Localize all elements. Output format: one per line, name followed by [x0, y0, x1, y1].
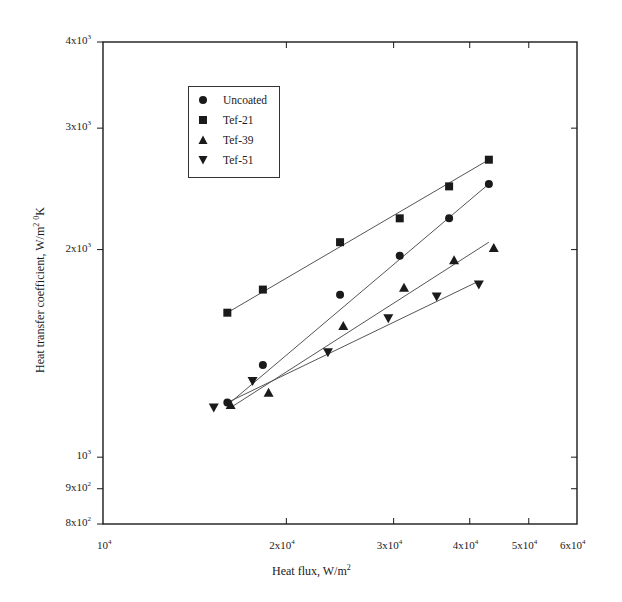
circle-icon: [485, 180, 493, 188]
y-axis-title-unit: K: [33, 207, 47, 216]
legend-label: Uncoated: [223, 94, 267, 106]
x-axis-title: Heat flux, W/m2: [272, 563, 351, 579]
axis-ticks: [97, 42, 577, 524]
triangle-up-icon: [399, 283, 409, 292]
square-icon: [259, 286, 267, 294]
legend-label: Tef-39: [223, 134, 254, 146]
triangle-down-icon: [189, 155, 217, 165]
legend-item-tef-21: Tef-21: [189, 111, 254, 129]
y-tick-label: 9x102: [31, 480, 91, 493]
legend-item-uncoated: Uncoated: [189, 91, 267, 109]
legend-item-tef-39: Tef-39: [189, 131, 254, 149]
y-tick-label: 3x103: [31, 119, 91, 132]
x-tick-label: 6x104: [560, 538, 586, 551]
plot-canvas: [0, 0, 622, 602]
triangle-down-icon: [209, 404, 219, 413]
y-axis-title-sup2: 0: [32, 216, 41, 220]
y-axis-title-sup1: 2: [32, 223, 41, 227]
triangle-up-icon: [489, 243, 499, 252]
circle-icon: [445, 214, 453, 222]
square-icon: [396, 214, 404, 222]
plot-frame: [103, 42, 577, 524]
x-tick-label: 4x104: [453, 538, 479, 551]
y-tick-label: 8x102: [31, 515, 91, 528]
x-axis-title-sup: 2: [347, 563, 351, 572]
x-tick-label: 3x104: [377, 538, 403, 551]
square-icon: [336, 238, 344, 246]
legend-label: Tef-51: [223, 154, 254, 166]
x-tick-label: 2x104: [269, 538, 295, 551]
triangle-up-icon: [449, 255, 459, 264]
triangle-down-icon: [474, 280, 484, 289]
square-icon: [485, 156, 493, 164]
legend-label: Tef-21: [223, 114, 254, 126]
fit-lines: [227, 160, 489, 408]
triangle-up-icon: [264, 388, 274, 397]
circle-icon: [189, 95, 217, 105]
x-tick-label: 104: [97, 538, 112, 551]
y-axis-title: Heat transfer coefficient, W/m2 0K: [32, 207, 48, 373]
square-icon: [223, 309, 231, 317]
legend: Uncoated Tef-21 Tef-39 Tef-51: [188, 86, 280, 178]
legend-item-tef-51: Tef-51: [189, 151, 254, 169]
y-tick-label: 103: [31, 448, 91, 461]
square-icon: [445, 182, 453, 190]
y-axis-title-text: Heat transfer coefficient, W/m: [33, 227, 47, 373]
triangle-down-icon: [383, 314, 393, 323]
square-icon: [189, 115, 217, 125]
data-points: [209, 156, 499, 413]
triangle-up-icon: [338, 321, 348, 330]
x-tick-label: 5x104: [512, 538, 538, 551]
triangle-up-icon: [189, 135, 217, 145]
y-tick-label: 4x103: [31, 33, 91, 46]
circle-icon: [396, 252, 404, 260]
circle-icon: [336, 291, 344, 299]
circle-icon: [259, 361, 267, 369]
x-axis-title-text: Heat flux, W/m: [272, 564, 347, 578]
